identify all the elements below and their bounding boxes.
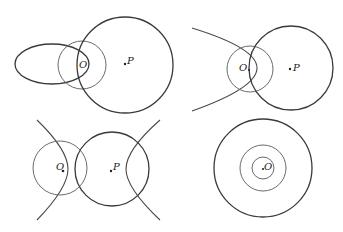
- point-o: [248, 69, 250, 71]
- panel-top-right: O P: [192, 26, 333, 111]
- hyperbola-right-branch: [126, 120, 160, 220]
- panel-bottom-left: O P: [33, 120, 160, 220]
- label-p: P: [292, 62, 300, 73]
- panel-top-left: O P: [15, 17, 173, 113]
- circle-centered-p: [75, 132, 149, 206]
- panel-bottom-right: O: [214, 119, 312, 217]
- point-p: [289, 68, 291, 70]
- point-o: [62, 170, 65, 173]
- ellipse: [15, 44, 89, 84]
- label-o: O: [79, 59, 87, 70]
- circle-around-o: [227, 46, 273, 92]
- label-p: P: [112, 161, 120, 172]
- hyperbola-branch: [192, 28, 257, 111]
- circle-centered-p: [249, 26, 333, 110]
- point-p: [124, 63, 126, 65]
- label-o: O: [264, 161, 272, 172]
- point-p: [110, 170, 112, 172]
- conic-sections-figure: O P O P O P O: [0, 0, 343, 232]
- label-o: O: [239, 62, 247, 73]
- label-p: P: [126, 55, 134, 66]
